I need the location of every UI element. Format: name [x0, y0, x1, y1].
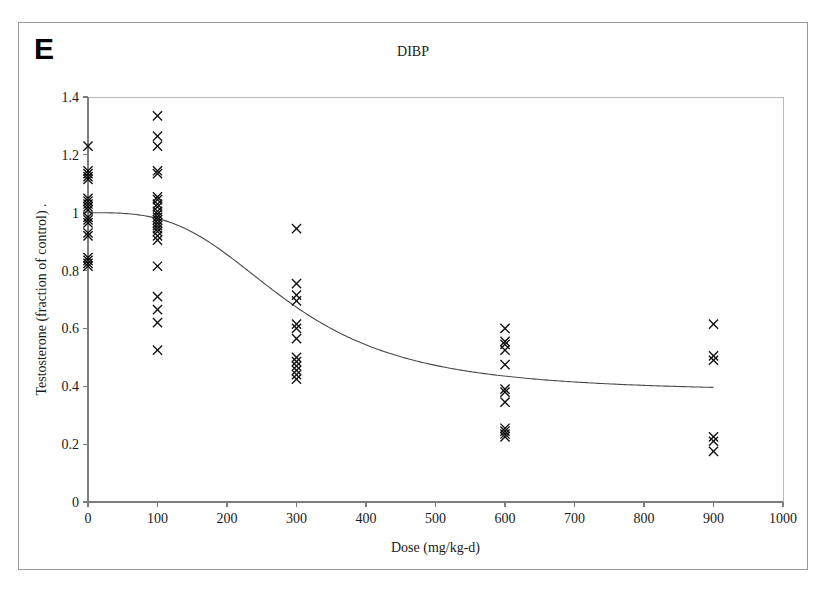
data-point-marker	[292, 361, 301, 370]
data-point-marker	[709, 437, 718, 446]
data-series	[500, 324, 509, 442]
x-tick-label: 0	[85, 511, 92, 526]
data-point-marker	[709, 351, 718, 360]
x-tick-label: 800	[634, 511, 655, 526]
y-tick-label: 0	[72, 495, 79, 510]
data-point-marker	[153, 111, 162, 120]
x-tick-label: 500	[425, 511, 446, 526]
data-point-marker	[709, 432, 718, 441]
data-point-marker	[292, 319, 301, 328]
fitted-curve	[88, 213, 714, 388]
data-point-marker	[500, 346, 509, 355]
y-axis-title: Testosterone (fraction of control) .	[34, 203, 50, 395]
data-point-marker	[709, 447, 718, 456]
data-point-marker	[292, 370, 301, 379]
data-point-marker	[500, 360, 509, 369]
y-tick-label: 1.4	[62, 90, 80, 105]
data-point-marker	[292, 334, 301, 343]
data-point-marker	[153, 262, 162, 271]
data-point-marker	[153, 236, 162, 245]
x-tick-label: 600	[495, 511, 516, 526]
data-point-marker	[153, 142, 162, 151]
y-tick-label: 1	[72, 206, 79, 221]
x-tick-label: 400	[356, 511, 377, 526]
data-point-marker	[153, 231, 162, 240]
data-point-marker	[500, 324, 509, 333]
x-tick-label: 900	[703, 511, 724, 526]
data-point-marker	[153, 131, 162, 140]
data-point-marker	[292, 366, 301, 375]
y-tick-label: 0.8	[62, 264, 80, 279]
x-tick-label: 300	[286, 511, 307, 526]
data-point-marker	[153, 292, 162, 301]
data-point-marker	[153, 318, 162, 327]
data-point-marker	[292, 279, 301, 288]
y-tick-label: 0.2	[62, 437, 80, 452]
data-point-marker	[292, 224, 301, 233]
data-point-marker	[292, 324, 301, 333]
data-series	[153, 111, 162, 355]
y-tick-label: 0.6	[62, 321, 80, 336]
x-tick-label: 1000	[769, 511, 797, 526]
data-point-marker	[709, 356, 718, 365]
data-point-marker	[153, 346, 162, 355]
y-tick-label: 1.2	[62, 148, 80, 163]
figure-root: E DIBP 00.20.40.60.811.21.40100200300400…	[0, 0, 826, 595]
data-point-marker	[292, 296, 301, 305]
data-series	[292, 224, 301, 384]
x-tick-label: 200	[217, 511, 238, 526]
x-tick-label: 100	[147, 511, 168, 526]
x-tick-label: 700	[564, 511, 585, 526]
data-point-marker	[153, 305, 162, 314]
data-point-marker	[292, 374, 301, 383]
x-axis-title: Dose (mg/kg-d)	[391, 540, 480, 556]
data-point-marker	[292, 357, 301, 366]
y-tick-label: 0.4	[62, 379, 80, 394]
data-point-marker	[709, 319, 718, 328]
data-point-marker	[292, 353, 301, 362]
scatter-plot: 00.20.40.60.811.21.401002003004005006007…	[0, 0, 826, 595]
data-point-marker	[500, 398, 509, 407]
